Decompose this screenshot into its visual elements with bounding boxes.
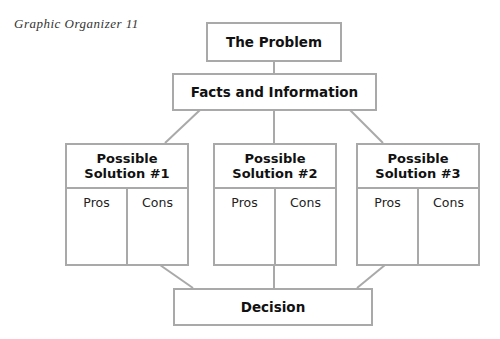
facts-solution3-connector <box>350 110 383 143</box>
cons-column: Cons <box>417 189 478 264</box>
solution-title-line1: Possible <box>245 151 306 166</box>
pros-column: Pros <box>358 189 417 264</box>
solution-box-1: PossibleSolution #1 Pros Cons <box>65 143 189 266</box>
problem-label: The Problem <box>226 34 322 50</box>
solution-title-line1: Possible <box>97 151 158 166</box>
decision-label: Decision <box>241 299 306 315</box>
facts-solution1-connector <box>165 110 200 143</box>
solution3-decision-connector <box>357 265 385 288</box>
cons-column: Cons <box>126 189 187 264</box>
solution-title-line2: Solution #3 <box>375 166 460 181</box>
pros-column: Pros <box>67 189 126 264</box>
solution-title-line1: Possible <box>388 151 449 166</box>
problem-box: The Problem <box>206 22 342 62</box>
solution-box-3: PossibleSolution #3 Pros Cons <box>356 143 480 266</box>
pros-column: Pros <box>215 189 274 264</box>
solution-title-line2: Solution #2 <box>232 166 317 181</box>
cons-column: Cons <box>274 189 335 264</box>
solution-box-2: PossibleSolution #2 Pros Cons <box>213 143 337 266</box>
solution1-decision-connector <box>160 265 193 288</box>
solution-title: PossibleSolution #2 <box>215 145 335 189</box>
solution-title-line2: Solution #1 <box>84 166 169 181</box>
facts-label: Facts and Information <box>191 84 358 100</box>
solution-title: PossibleSolution #3 <box>358 145 478 189</box>
solution-title: PossibleSolution #1 <box>67 145 187 189</box>
facts-box: Facts and Information <box>172 73 377 111</box>
decision-box: Decision <box>173 288 373 326</box>
